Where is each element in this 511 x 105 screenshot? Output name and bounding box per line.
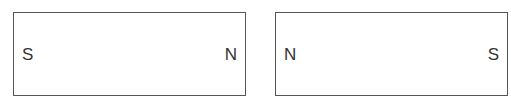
- magnet-1-right-pole-label: N: [225, 46, 237, 63]
- magnet-1-left-pole-label: S: [22, 46, 33, 63]
- bar-magnet-2: N S: [275, 12, 508, 96]
- bar-magnet-1: S N: [13, 12, 246, 96]
- magnet-2-right-pole-label: S: [488, 46, 499, 63]
- magnet-2-left-pole-label: N: [284, 46, 296, 63]
